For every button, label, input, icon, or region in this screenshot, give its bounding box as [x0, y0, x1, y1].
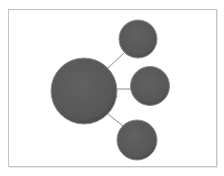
connector-bottom [108, 114, 123, 126]
satellite-node-middle [131, 67, 170, 106]
connector-top [108, 53, 124, 68]
center-node [51, 58, 117, 124]
satellite-node-top [119, 20, 157, 58]
radial-diagram [0, 0, 224, 176]
satellite-node-bottom [117, 120, 157, 160]
